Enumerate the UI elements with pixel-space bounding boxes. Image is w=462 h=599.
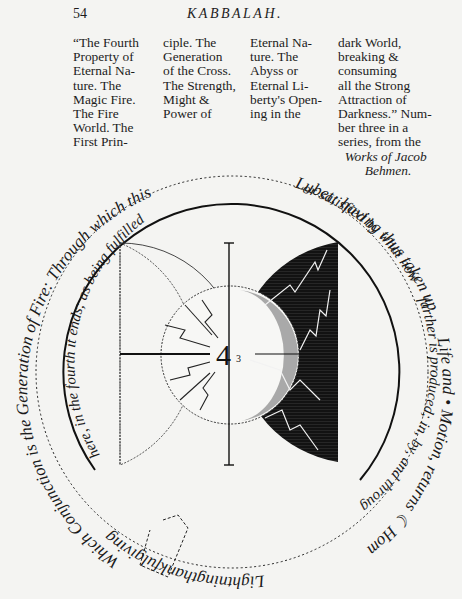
central-emblem: 4 3 — [120, 242, 338, 465]
center-symbol: 4 — [216, 338, 231, 371]
outer-ring-text-bottom: Lightningthankfulgiving — [101, 528, 267, 592]
center-subscript: 3 — [236, 353, 241, 364]
behmen-fire-figure: Which Conjunction is the Generation of F… — [0, 0, 462, 599]
outer-ring-text: Which Conjunction is the Generation of F… — [12, 182, 154, 572]
